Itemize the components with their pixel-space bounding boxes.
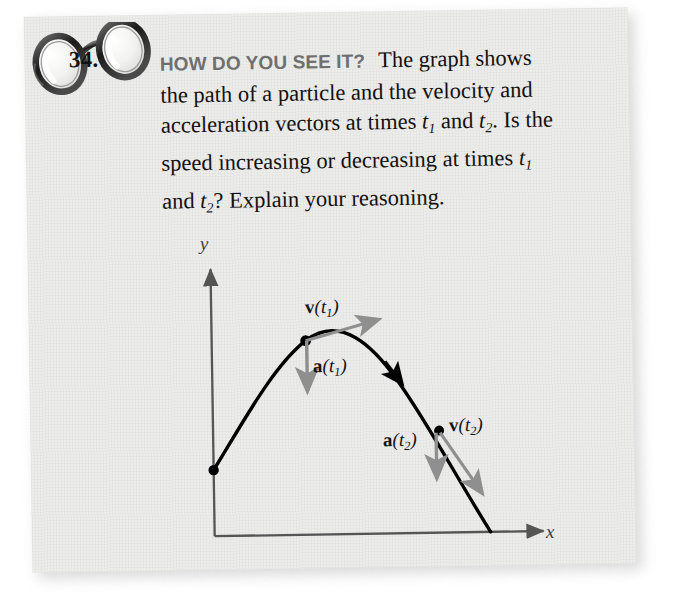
acceleration-t2-label: a(t2) xyxy=(383,429,417,455)
velocity-t1-label: v(t1) xyxy=(305,296,339,322)
x-axis xyxy=(215,531,544,536)
velocity-t2-label: v(t2) xyxy=(449,414,483,440)
acceleration-vector-t1 xyxy=(307,341,308,391)
velocity-vector-t2 xyxy=(440,432,482,494)
velocity-vector-t1 xyxy=(305,320,378,341)
acceleration-vector-t2 xyxy=(436,433,437,478)
path-direction-arrow xyxy=(385,361,400,381)
how-do-you-see-it-header: HOW DO YOU SEE IT? xyxy=(160,50,365,74)
acceleration-t1-label: a(t1) xyxy=(313,355,347,381)
point-t2 xyxy=(434,426,444,436)
y-axis xyxy=(211,269,215,536)
start-point xyxy=(208,465,219,476)
problem-text: HOW DO YOU SEE IT?The graph shows the pa… xyxy=(160,41,633,225)
text-line-1-rest: The graph shows xyxy=(378,45,532,72)
problem-number: 34. xyxy=(69,47,99,73)
page-content: 34. HOW DO YOU SEE IT?The graph shows th… xyxy=(0,0,700,599)
text-line-5: and t2? Explain your reasoning. xyxy=(162,180,633,225)
point-t1 xyxy=(300,335,311,346)
y-axis-label: y xyxy=(200,233,209,255)
x-axis-label: x xyxy=(546,521,555,543)
